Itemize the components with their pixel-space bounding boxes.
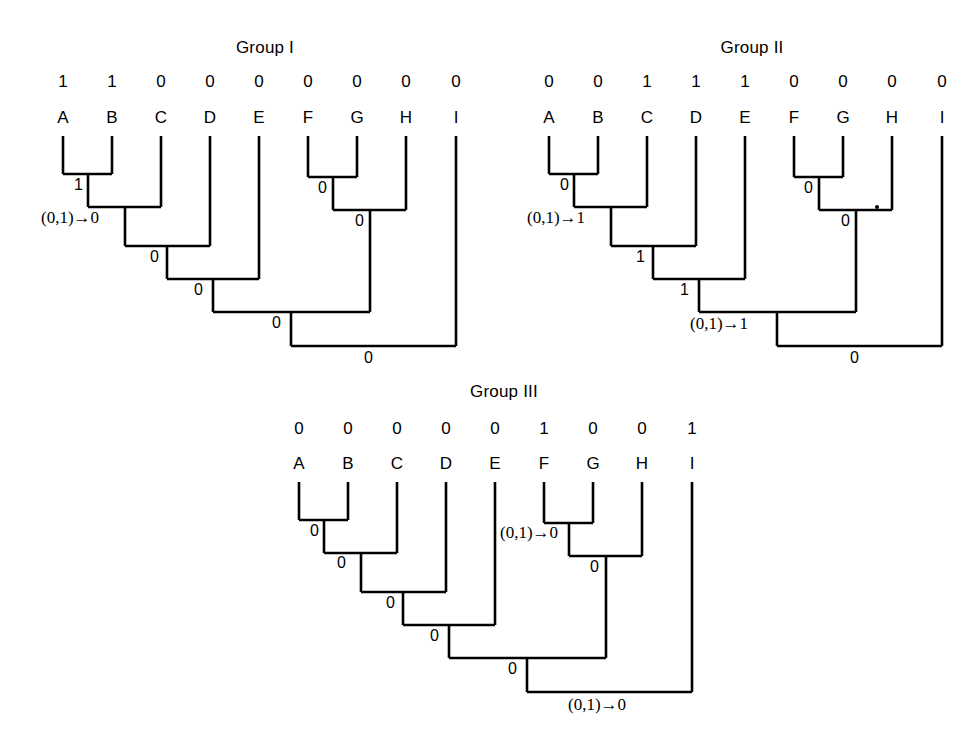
tree-panel-group-iii: Group III 0 0 0 0 0 1 0 0 1 A B C D E F … xyxy=(236,357,726,739)
node-label-root: (0,1)→0 xyxy=(568,695,626,715)
node-label-abcd: 0 xyxy=(386,594,395,612)
node-label-abcde: 0 xyxy=(430,627,439,645)
node-label-abc: (0,1)→1 xyxy=(527,208,585,228)
node-label-ab: 0 xyxy=(560,176,569,194)
node-label-left-right: 0 xyxy=(508,660,517,678)
phylogenetic-figure-page: { "figure": { "tip_names": ["A", "B", "C… xyxy=(0,0,976,739)
cladogram-lines-group-iii xyxy=(236,357,726,739)
tree-panel-group-i: Group I 1 1 0 0 0 0 0 0 0 A B C D E F G … xyxy=(0,0,490,375)
node-label-fg: 0 xyxy=(804,179,813,197)
node-label-fg: (0,1)→0 xyxy=(500,523,558,543)
node-label-fg: 0 xyxy=(318,179,327,197)
node-label-abcd: 0 xyxy=(150,248,159,266)
ink-speck-artifact xyxy=(875,205,879,209)
node-label-fgh: 0 xyxy=(841,212,850,230)
node-label-fgh: 0 xyxy=(590,558,599,576)
node-label-abc: 0 xyxy=(337,554,346,572)
node-label-ab: 0 xyxy=(310,522,319,540)
node-label-left-right: 0 xyxy=(272,314,281,332)
node-label-abcd: 1 xyxy=(636,248,645,266)
node-label-left-right: (0,1)→1 xyxy=(690,314,748,334)
node-label-abcde: 0 xyxy=(194,281,203,299)
node-label-root: 0 xyxy=(850,349,859,367)
node-label-abcde: 1 xyxy=(680,281,689,299)
node-label-ab: 1 xyxy=(74,176,83,194)
node-label-abc: (0,1)→0 xyxy=(41,208,99,228)
tree-panel-group-ii: Group II 0 0 1 1 1 0 0 0 0 A B C D E F G… xyxy=(486,0,976,375)
node-label-fgh: 0 xyxy=(355,212,364,230)
